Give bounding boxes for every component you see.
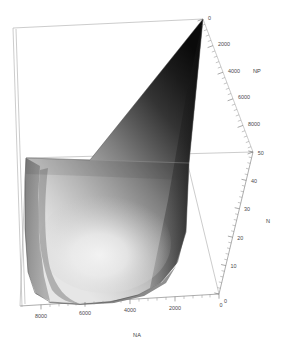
n-axis-group: 0 10 20 30 40 50 N: [214, 150, 270, 304]
n-axis-ticks: [214, 151, 253, 294]
na-tick-label-2000: 2000: [169, 305, 181, 311]
np-tick-label-4000: 4000: [228, 68, 240, 74]
np-axis-ticks: [198, 19, 253, 154]
np-axis-title: NP: [253, 68, 261, 74]
box-edge-interior-right: [186, 157, 219, 294]
surface-basin-highlight: [39, 193, 171, 293]
np-axis-group: 0 2000 4000 6000 8000 NP: [198, 15, 261, 155]
n-tick-label-0: 0: [224, 298, 227, 304]
na-tick-label-6000: 6000: [79, 310, 91, 316]
plot-canvas: 8000 6000 4000 2000 0 NA: [0, 0, 282, 354]
box-edge-n-axis: [219, 152, 253, 294]
n-tick-label-10: 10: [231, 263, 237, 269]
na-tick-label-4000: 4000: [124, 307, 136, 313]
n-tick-label-50: 50: [258, 150, 264, 156]
na-tick-label-0: 0: [220, 302, 223, 308]
np-tick-label-2000: 2000: [218, 41, 230, 47]
box-edge-right-rear: [203, 19, 253, 152]
np-tick-label-0: 0: [208, 15, 211, 21]
surface-mesh: [25, 19, 203, 305]
na-tick-label-8000: 8000: [35, 313, 47, 319]
n-tick-label-40: 40: [251, 178, 257, 184]
n-axis-title: N: [266, 218, 270, 224]
n-tick-label-30: 30: [244, 206, 250, 212]
np-tick-label-8000: 8000: [248, 121, 260, 127]
n-tick-label-20: 20: [237, 235, 243, 241]
surface-plot-figure: 8000 6000 4000 2000 0 NA: [0, 0, 282, 354]
box-edge-top-back: [13, 19, 203, 28]
na-axis-title: NA: [133, 332, 141, 338]
np-tick-label-6000: 6000: [238, 94, 250, 100]
